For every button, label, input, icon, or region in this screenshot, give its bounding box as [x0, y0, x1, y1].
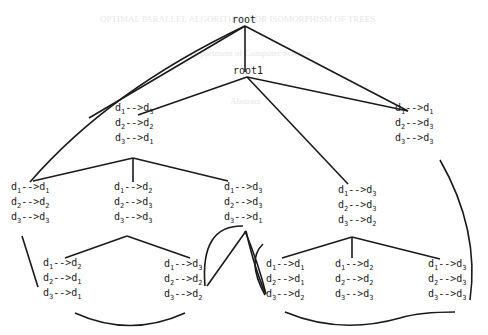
mapping-row: d2-->d1	[266, 273, 305, 288]
mapping-row: d3-->d2	[164, 288, 203, 303]
mapping-row: d3-->d1	[224, 211, 263, 226]
mapping-row: d2-->d3	[428, 273, 467, 288]
mapping-row: d3-->d3	[114, 211, 153, 226]
mapping-row: d2-->d2	[115, 117, 154, 132]
tree-node: d1-->d3 d2-->d2 d3-->d2	[164, 258, 203, 303]
mapping-row: d2-->d3	[224, 196, 263, 211]
mapping-row: d1-->d3	[115, 102, 154, 117]
mapping-row: d1-->d2	[43, 257, 82, 272]
mapping-row: d1-->d1	[11, 181, 50, 196]
tree-node: d1-->d3 d2-->d2 d3-->d1	[115, 102, 154, 147]
tree-node: d1-->d1 d2-->d3 d3-->d3	[395, 102, 434, 147]
mapping-row: d2-->d3	[395, 117, 434, 132]
mapping-row: d2-->d1	[43, 272, 82, 287]
mapping-row: d3-->d3	[335, 288, 374, 303]
tree-node: d1-->d3 d2-->d3 d3-->d1	[224, 181, 263, 226]
tree-node: d1-->d1 d2-->d1 d3-->d2	[266, 258, 305, 303]
mapping-row: d1-->d3	[428, 258, 467, 273]
mapping-row: d1-->d1	[395, 102, 434, 117]
tree-node: d1-->d1 d2-->d2 d3-->d3	[11, 181, 50, 226]
root-node: root	[232, 14, 256, 26]
tree-node: d1-->d3 d2-->d3 d3-->d2	[338, 184, 377, 229]
mapping-row: d2-->d2	[164, 273, 203, 288]
mapping-row: d2-->d3	[114, 196, 153, 211]
mapping-row: d3-->d2	[266, 288, 305, 303]
mapping-row: d1-->d2	[335, 258, 374, 273]
root1-node: root1	[233, 65, 263, 77]
mapping-row: d2-->d2	[335, 273, 374, 288]
mapping-row: d1-->d3	[338, 184, 377, 199]
tree-node: d1-->d3 d2-->d3 d3-->d3	[428, 258, 467, 303]
mapping-row: d3-->d3	[395, 132, 434, 147]
mapping-row: d2-->d3	[338, 199, 377, 214]
mapping-row: d1-->d3	[224, 181, 263, 196]
mapping-row: d2-->d2	[11, 196, 50, 211]
tree-node: d1-->d2 d2-->d2 d3-->d3	[335, 258, 374, 303]
tree-node: d1-->d2 d2-->d3 d3-->d3	[114, 181, 153, 226]
mapping-row: d3-->d2	[338, 214, 377, 229]
mapping-row: d1-->d3	[164, 258, 203, 273]
mapping-row: d3-->d3	[11, 211, 50, 226]
mapping-row: d1-->d1	[266, 258, 305, 273]
mapping-row: d3-->d1	[115, 132, 154, 147]
tree-node: d1-->d2 d2-->d1 d3-->d1	[43, 257, 82, 302]
mapping-row: d1-->d2	[114, 181, 153, 196]
mapping-row: d3-->d3	[428, 288, 467, 303]
mapping-row: d3-->d1	[43, 287, 82, 302]
